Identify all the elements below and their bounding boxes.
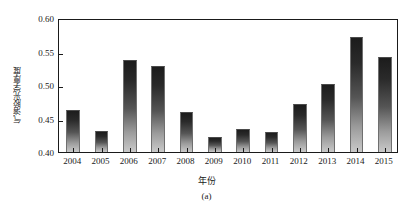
x-axis-tick-mark xyxy=(243,148,244,152)
x-axis-tick-label: 2015 xyxy=(375,156,393,167)
figure-chart-aerosol-optical-depth: 气溶胶光学厚度 0.400.450.500.550.60 20042005200… xyxy=(0,0,413,220)
x-axis-tick-label: 2007 xyxy=(148,156,166,167)
bar xyxy=(66,110,80,152)
y-axis-tick-label: 0.40 xyxy=(38,149,54,158)
bar xyxy=(293,104,307,152)
y-axis-tick-mark xyxy=(59,121,63,122)
x-axis-tick-label: 2009 xyxy=(205,156,223,167)
y-axis-tick-label: 0.55 xyxy=(38,48,54,57)
x-axis-tick-label: 2011 xyxy=(262,156,280,167)
x-axis-tick-mark xyxy=(272,148,273,152)
x-axis-tick-labels: 2004200520062007200820092010201120122013… xyxy=(58,156,398,170)
y-axis-tick-label: 0.60 xyxy=(38,15,54,24)
x-axis-tick-label: 2014 xyxy=(347,156,365,167)
x-axis-tick-label: 2004 xyxy=(63,156,81,167)
x-axis-tick-mark xyxy=(215,148,216,152)
x-axis-tick-label: 2013 xyxy=(318,156,336,167)
x-axis-tick-mark xyxy=(130,148,131,152)
bar xyxy=(378,57,392,152)
x-axis-tick-mark xyxy=(357,148,358,152)
bar-series xyxy=(59,20,397,152)
y-axis-tick-label: 0.50 xyxy=(38,82,54,91)
x-axis-tick-mark xyxy=(300,148,301,152)
bar xyxy=(123,60,137,152)
x-axis-tick-mark xyxy=(158,148,159,152)
x-axis-tick-label: 2010 xyxy=(233,156,251,167)
x-axis-tick-label: 2006 xyxy=(120,156,138,167)
y-axis-tick-mark xyxy=(59,87,63,88)
bar xyxy=(180,112,194,152)
plot-area xyxy=(58,19,398,153)
y-axis-tick-labels: 0.400.450.500.550.60 xyxy=(26,19,54,153)
x-axis-tick-label: 2008 xyxy=(177,156,195,167)
bar xyxy=(321,84,335,152)
x-axis-tick-mark xyxy=(385,148,386,152)
x-axis-tick-label: 2012 xyxy=(290,156,308,167)
x-axis-tick-mark xyxy=(328,148,329,152)
x-axis-tick-mark xyxy=(102,148,103,152)
x-axis-title: 年份 xyxy=(0,176,413,187)
y-axis-tick-mark xyxy=(59,54,63,55)
x-axis-tick-mark xyxy=(187,148,188,152)
y-axis-title: 气溶胶光学厚度 xyxy=(10,42,26,148)
x-axis-tick-label: 2005 xyxy=(92,156,110,167)
figure-caption: (a) xyxy=(0,191,413,202)
bar xyxy=(350,37,364,152)
bar xyxy=(151,66,165,152)
y-axis-tick-label: 0.45 xyxy=(38,115,54,124)
x-axis-tick-mark xyxy=(73,148,74,152)
